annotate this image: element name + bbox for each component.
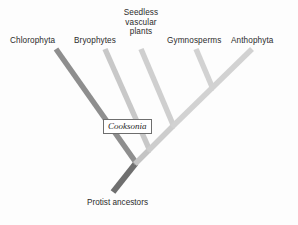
taxon-label-seedless-vascular-plants: Seedless vascular plants [118,8,164,37]
branch-root-stem [113,163,136,192]
taxon-label-gymnosperms: Gymnosperms [167,36,221,46]
root-label-protist-ancestors: Protist ancestors [87,198,148,207]
branch-anthophyta [211,49,252,89]
branch-internal-3 [172,88,212,127]
branch-chlorophyta [56,49,137,164]
fossil-marker-cooksonia: Cooksonia [103,119,152,134]
branch-internal-1 [135,150,149,164]
taxon-label-chlorophyta: Chlorophyta [10,36,55,46]
cladogram-figure: Chlorophyta Bryophytes Seedless vascular… [0,0,298,225]
branch-bryophytes [105,49,150,151]
branch-gymnosperms [196,49,213,89]
taxon-label-anthophyta: Anthophyta [231,36,273,46]
taxon-label-bryophytes: Bryophytes [74,36,116,46]
branch-seedless-vascular-plants [141,49,174,127]
branch-internal-2 [148,126,173,151]
